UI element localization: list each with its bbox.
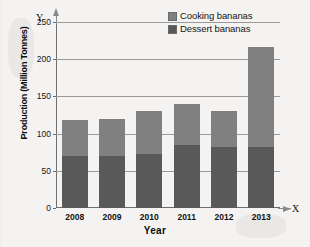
y-tick-mark [53, 208, 56, 209]
legend-item-cooking: Cooking bananas [168, 11, 252, 21]
bar-segment-dessert[interactable] [62, 156, 88, 208]
y-tick-label: 200 [37, 54, 51, 64]
bar-segment-cooking[interactable] [136, 111, 162, 154]
y-tick-label: 150 [37, 91, 51, 101]
plot-area: 050100150200250 200820092010201120122013 [56, 22, 280, 208]
x-axis-title: Year [0, 225, 310, 236]
bar-segment-dessert[interactable] [136, 154, 162, 208]
bar-segment-dessert[interactable] [248, 147, 274, 208]
stacked-bar-chart: Cooking bananas Dessert bananas Y X Prod… [0, 0, 310, 247]
x-axis-letter: X [292, 203, 299, 214]
x-tick-label: 2009 [103, 212, 122, 222]
bar-segment-cooking[interactable] [62, 120, 88, 156]
y-axis-title: Production (Million Tonnes) [19, 3, 29, 163]
legend-label-cooking: Cooking bananas [180, 11, 252, 21]
x-tick-label: 2010 [140, 212, 159, 222]
bar-segment-cooking[interactable] [248, 47, 274, 147]
x-tick-label: 2012 [215, 212, 234, 222]
x-tick-label: 2011 [177, 212, 195, 222]
bar-group[interactable]: 2011 [174, 22, 200, 208]
bar-group[interactable]: 2013 [248, 22, 274, 208]
y-tick-label: 0 [46, 203, 51, 213]
bar-group[interactable]: 2012 [211, 22, 237, 208]
x-axis-arrow-icon [283, 206, 291, 212]
bar-segment-dessert[interactable] [211, 147, 237, 208]
y-tick-label: 100 [37, 129, 51, 139]
bar-segment-cooking[interactable] [99, 119, 125, 156]
bar-segment-cooking[interactable] [211, 111, 237, 147]
bar-segment-dessert[interactable] [174, 145, 200, 208]
bars-layer: 200820092010201120122013 [56, 22, 280, 208]
bar-group[interactable]: 2010 [136, 22, 162, 208]
y-tick-label: 250 [37, 17, 51, 27]
bar-group[interactable]: 2008 [62, 22, 88, 208]
x-tick-label: 2013 [252, 212, 271, 222]
y-tick-label: 50 [42, 166, 51, 176]
bar-segment-dessert[interactable] [99, 156, 125, 208]
legend-swatch-cooking-icon [168, 12, 177, 21]
x-tick-label: 2008 [65, 212, 84, 222]
bar-group[interactable]: 2009 [99, 22, 125, 208]
bar-segment-cooking[interactable] [174, 104, 200, 145]
y-axis-arrow-icon [53, 8, 59, 16]
